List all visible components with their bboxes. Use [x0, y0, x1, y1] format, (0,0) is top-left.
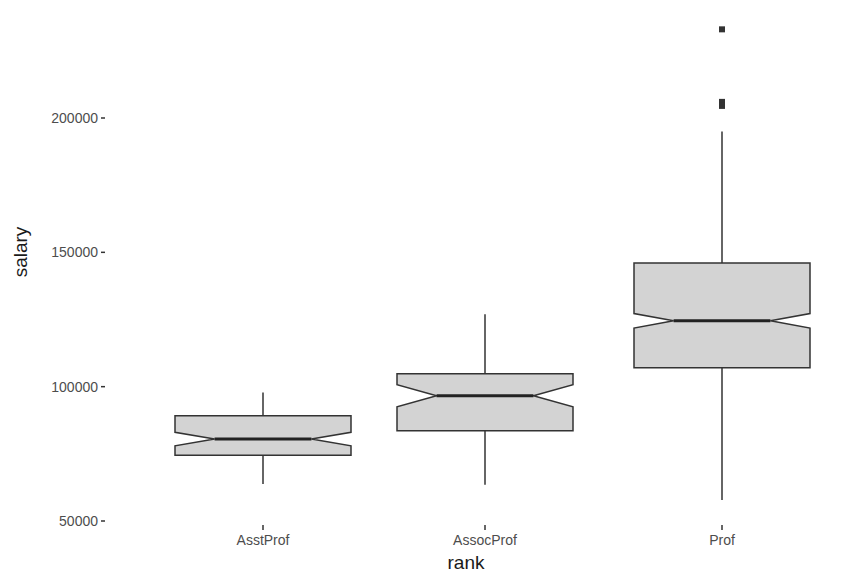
- boxplot-chart: 50000100000150000200000 AsstProfAssocPro…: [0, 0, 857, 581]
- y-tick-label: 50000: [59, 513, 98, 529]
- outlier-point: [719, 26, 725, 32]
- x-tick-label: AsstProf: [237, 532, 290, 548]
- box-body: [175, 416, 351, 455]
- y-axis: 50000100000150000200000: [51, 110, 105, 529]
- x-tick-label: Prof: [709, 532, 735, 548]
- box-body: [634, 263, 810, 368]
- y-tick-label: 200000: [51, 110, 98, 126]
- x-tick-label: AssocProf: [453, 532, 517, 548]
- boxes: [175, 26, 810, 500]
- box-Prof: [634, 26, 810, 500]
- y-axis-title: salary: [10, 226, 31, 277]
- y-tick-label: 150000: [51, 244, 98, 260]
- outlier-point: [719, 103, 725, 109]
- box-AsstProf: [175, 393, 351, 484]
- box-body: [397, 374, 573, 431]
- x-axis: AsstProfAssocProfProf: [237, 525, 735, 548]
- x-axis-title: rank: [448, 552, 485, 573]
- box-AssocProf: [397, 314, 573, 485]
- y-tick-label: 100000: [51, 379, 98, 395]
